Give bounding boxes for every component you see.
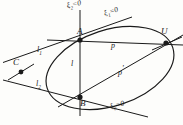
line-label-p: p	[111, 42, 115, 50]
line-label-l: l	[71, 60, 73, 68]
diagram-canvas	[0, 0, 183, 125]
line-label-l2: l2	[36, 80, 41, 90]
point-label-B: B	[80, 99, 86, 108]
xi2-rest: =0	[71, 0, 81, 9]
point-label-A: A	[77, 27, 83, 36]
line-p	[47, 40, 183, 45]
line-l2	[3, 80, 148, 117]
xi0-rest: =0	[114, 99, 125, 110]
point-U-dot	[163, 40, 168, 45]
point-A-dot	[77, 37, 82, 42]
line-label-p-prime-mark: '	[122, 64, 124, 73]
point-label-U: U	[161, 27, 168, 36]
xi1-rest: =0	[108, 5, 119, 16]
point-label-C: C	[13, 58, 19, 67]
line-label-l1: l1	[37, 46, 42, 56]
line-l1	[3, 17, 132, 63]
point-C-dot	[19, 70, 24, 75]
line-label-l2-sub: 2	[38, 84, 41, 90]
conic-diagram-figure: A B C U l1 l2 l p p' ξ2=0 ξ1=0 ξ0=0	[0, 0, 183, 125]
line-label-p-prime: p'	[118, 65, 124, 77]
line-label-l1-sub: 1	[39, 50, 42, 56]
